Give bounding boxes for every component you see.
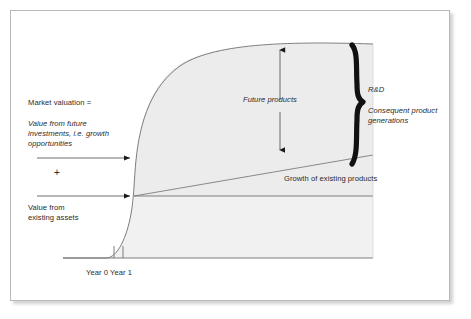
rd-title: R&D bbox=[368, 85, 468, 95]
existing-assets-label: Value from existing assets bbox=[28, 203, 118, 223]
figure-container: Market valuation = Value from future inv… bbox=[0, 0, 471, 319]
market-valuation-label: Market valuation = Value from future inv… bbox=[28, 88, 140, 159]
plus-symbol: + bbox=[54, 168, 60, 178]
growth-of-existing-products-label: Growth of existing products bbox=[284, 174, 377, 184]
rd-callout-label: R&D Consequent product generations bbox=[368, 75, 468, 136]
future-products-label: Future products bbox=[243, 95, 297, 105]
rd-detail: Consequent product generations bbox=[368, 106, 468, 126]
market-valuation-line1: Market valuation = bbox=[28, 98, 140, 108]
diagram-canvas bbox=[0, 0, 471, 319]
year-axis-labels: Year 0 Year 1 bbox=[86, 268, 132, 278]
market-valuation-line2: Value from future investments, i.e. grow… bbox=[28, 119, 140, 150]
